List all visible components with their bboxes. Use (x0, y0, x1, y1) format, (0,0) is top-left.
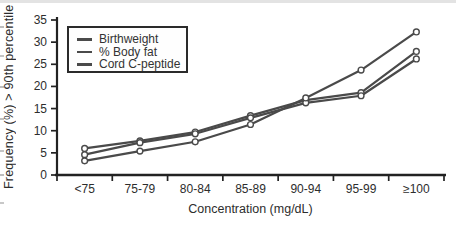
y-tick-label: 25 (34, 57, 48, 71)
birthweight-line-swatch (77, 38, 92, 41)
legend-label-birthweight: Birthweight (99, 33, 158, 45)
y-tick-label: 35 (34, 13, 48, 27)
data-point-marker (137, 148, 143, 154)
data-point-marker (413, 29, 419, 35)
x-tick-label: 80-84 (180, 182, 211, 196)
data-point-marker (303, 95, 309, 101)
legend-label-cord-c-peptide: Cord C-peptide (99, 58, 180, 70)
y-tick-label: 15 (34, 102, 48, 116)
data-point-marker (82, 146, 88, 152)
data-point-marker (248, 122, 254, 128)
x-tick-label: ≥100 (403, 182, 430, 196)
legend-item-body-fat: % Body fat (77, 46, 186, 59)
y-tick-label: 20 (34, 79, 48, 93)
x-axis-title: Concentration (mg/dL) (57, 202, 444, 216)
data-point-marker (358, 67, 364, 73)
data-point-marker (413, 56, 419, 62)
data-point-marker (82, 152, 88, 158)
x-tick-label: <75 (74, 182, 95, 196)
x-tick-label: 85-89 (235, 182, 266, 196)
y-tick-label: 10 (34, 124, 48, 138)
y-ticks: 05101520253035 (34, 13, 57, 182)
y-tick-label: 0 (40, 168, 47, 182)
body-fat-line-swatch (77, 51, 92, 54)
data-point-marker (192, 131, 198, 137)
cord-c-peptide-line-swatch (77, 63, 92, 66)
legend-item-cord-c-peptide: Cord C-peptide (77, 58, 186, 71)
x-tick-label: 75-79 (125, 182, 156, 196)
data-point-marker (413, 49, 419, 55)
y-tick-label: 30 (34, 35, 48, 49)
series-line-1 (85, 59, 417, 155)
data-point-marker (137, 140, 143, 146)
legend-item-birthweight: Birthweight (77, 33, 186, 46)
legend: Birthweight % Body fat Cord C-peptide (67, 26, 188, 73)
data-point-marker (192, 139, 198, 145)
legend-label-body-fat: % Body fat (99, 46, 157, 58)
x-tick-label: 95-99 (346, 182, 377, 196)
data-point-marker (248, 115, 254, 121)
data-point-marker (82, 158, 88, 164)
x-ticks: <7575-7980-8485-8990-9495-99≥100 (57, 175, 444, 196)
y-tick-label: 5 (40, 146, 47, 160)
x-tick-label: 90-94 (290, 182, 321, 196)
data-point-marker (358, 93, 364, 99)
chart-figure: Frequency (%) > 90th percentile 05101520… (0, 0, 456, 232)
